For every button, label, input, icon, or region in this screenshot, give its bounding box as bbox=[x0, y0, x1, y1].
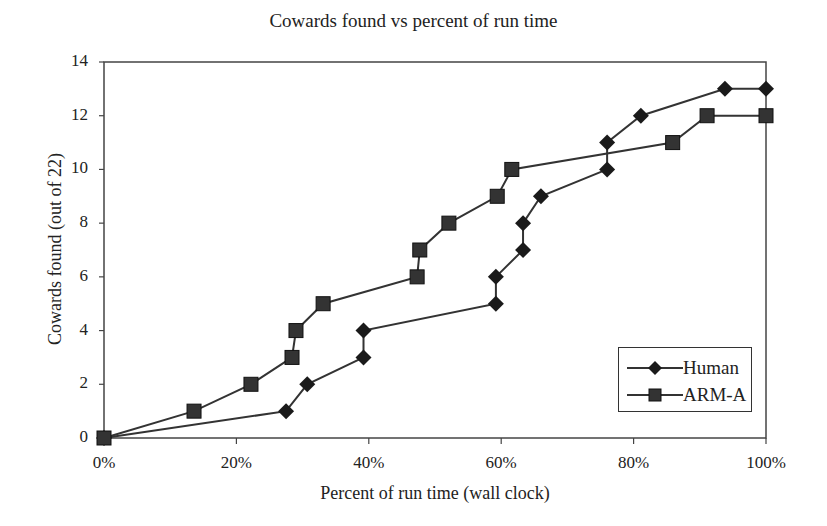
square-marker bbox=[289, 324, 303, 338]
square-marker bbox=[505, 162, 519, 176]
diamond-marker bbox=[717, 81, 733, 97]
x-tick-label: 20% bbox=[206, 453, 266, 473]
diamond-marker bbox=[758, 81, 774, 97]
square-marker bbox=[700, 109, 714, 123]
diamond-marker bbox=[356, 323, 372, 339]
square-marker bbox=[410, 270, 424, 284]
x-axis-label: Percent of run time (wall clock) bbox=[104, 483, 766, 504]
diamond-marker bbox=[515, 215, 531, 231]
x-tick-label: 80% bbox=[604, 453, 664, 473]
y-tick-label: 0 bbox=[58, 427, 88, 447]
y-tick-label: 12 bbox=[58, 105, 88, 125]
legend-item-human: Human bbox=[619, 354, 753, 382]
x-tick-label: 0% bbox=[74, 453, 134, 473]
square-marker bbox=[316, 297, 330, 311]
diamond-marker bbox=[533, 188, 549, 204]
legend-label: Human bbox=[683, 357, 739, 379]
x-tick-label: 100% bbox=[736, 453, 796, 473]
square-marker bbox=[759, 109, 773, 123]
square-marker bbox=[97, 431, 111, 445]
legend-item-arm-a: ARM-A bbox=[619, 381, 753, 409]
square-marker bbox=[666, 136, 680, 150]
square-marker bbox=[413, 243, 427, 257]
diamond-marker-icon bbox=[625, 354, 685, 382]
y-axis-label: Cowards found (out of 22) bbox=[45, 153, 66, 345]
x-tick-label: 60% bbox=[471, 453, 531, 473]
square-marker bbox=[187, 404, 201, 418]
square-marker bbox=[244, 377, 258, 391]
diamond-marker bbox=[599, 161, 615, 177]
square-marker-icon bbox=[625, 381, 685, 409]
square-marker bbox=[442, 216, 456, 230]
square-marker bbox=[285, 350, 299, 364]
line-chart bbox=[0, 0, 827, 526]
diamond-marker bbox=[488, 296, 504, 312]
y-tick-label: 14 bbox=[58, 51, 88, 71]
square-marker bbox=[490, 189, 504, 203]
legend-label: ARM-A bbox=[683, 384, 746, 406]
y-tick-label: 2 bbox=[58, 373, 88, 393]
legend: Human ARM-A bbox=[618, 347, 752, 412]
diamond-marker bbox=[356, 349, 372, 365]
x-tick-label: 40% bbox=[339, 453, 399, 473]
